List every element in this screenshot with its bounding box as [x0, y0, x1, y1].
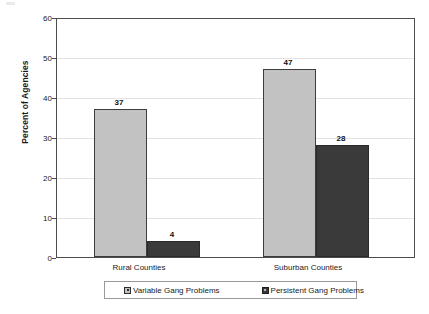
scan-artifact — [6, 2, 15, 5]
y-tick-label-20: 20 — [26, 175, 52, 183]
bar-suburban-persistent[interactable] — [316, 145, 369, 257]
bar-value-suburban-persistent: 28 — [321, 135, 361, 143]
x-axis-label-suburban: Suburban Counties — [243, 264, 373, 272]
bar-value-suburban-variable: 47 — [268, 59, 308, 67]
y-tick-label-0: 0 — [26, 255, 52, 263]
bar-suburban-variable[interactable] — [263, 69, 316, 257]
bar-value-rural-persistent: 4 — [152, 231, 192, 239]
legend-label-persistent-gang-problems: Persistent Gang Problems — [271, 286, 364, 295]
legend-swatch-light-gray-square — [124, 287, 131, 294]
legend: Variable Gang Problems Persistent Gang P… — [104, 281, 357, 299]
y-tick-label-50: 50 — [26, 55, 52, 63]
y-tick-label-30: 30 — [26, 135, 52, 143]
y-tick-label-40: 40 — [26, 95, 52, 103]
bar-chart: Percent of Agencies 60 50 40 30 20 10 0 … — [0, 0, 429, 314]
bar-value-rural-variable: 37 — [99, 99, 139, 107]
x-axis-label-rural: Rural Counties — [74, 264, 204, 272]
bar-rural-variable[interactable] — [94, 109, 147, 257]
gridline-50 — [57, 58, 414, 59]
y-tick-label-60: 60 — [26, 15, 52, 23]
y-tick-label-10: 10 — [26, 215, 52, 223]
bar-rural-persistent[interactable] — [147, 241, 200, 257]
legend-item-persistent-gang-problems[interactable]: Persistent Gang Problems — [262, 286, 364, 295]
plot-area — [56, 18, 415, 258]
legend-item-variable-gang-problems[interactable]: Variable Gang Problems — [124, 286, 220, 295]
legend-label-variable-gang-problems: Variable Gang Problems — [133, 286, 220, 295]
y-tick-mark-0 — [52, 258, 56, 259]
legend-swatch-dark-gray-square — [262, 287, 269, 294]
